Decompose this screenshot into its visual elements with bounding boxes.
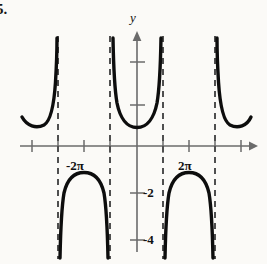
x-tick-label-neg-2pi: -2π [66,159,84,172]
y-axis-arrow-icon [133,31,142,41]
curve-branch-lower-right [165,173,213,259]
x-tick-label-2pi: 2π [178,159,192,172]
problem-number: 5. [0,2,7,17]
curve-branch-upper-left-partial [22,38,57,127]
y-tick-label-neg-2: -2 [143,186,154,199]
y-tick-label-neg-4: -4 [143,233,154,246]
math-graph-svg [0,0,267,264]
y-axis-label: y [130,11,136,24]
curve-branch-upper-right-partial [217,38,251,127]
curve-branch-lower-left [60,173,108,259]
x-axis-arrow-icon [249,142,258,151]
